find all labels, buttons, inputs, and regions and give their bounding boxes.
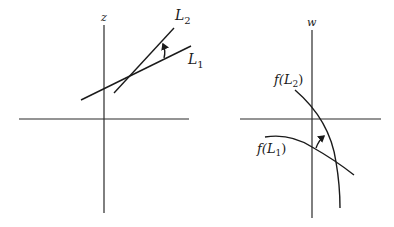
w-axis-label: w xyxy=(307,16,317,29)
z-plane: z L2 L1 xyxy=(19,7,204,213)
line-L2 xyxy=(114,28,174,93)
label-fL1: f(L1) xyxy=(256,141,286,158)
label-L2: L2 xyxy=(174,7,191,26)
label-L1: L1 xyxy=(187,51,204,70)
line-L1 xyxy=(81,46,191,100)
w-plane: w f(L2) f(L1) xyxy=(240,16,381,218)
label-fL2: f(L2) xyxy=(273,72,303,89)
curve-fL2 xyxy=(295,90,340,208)
angle-arrow-z xyxy=(163,44,165,58)
z-axis-label: z xyxy=(100,11,107,24)
conformal-map-diagram: z L2 L1 w f(L2) f(L1) xyxy=(0,0,394,227)
angle-arrow-w xyxy=(316,136,324,148)
